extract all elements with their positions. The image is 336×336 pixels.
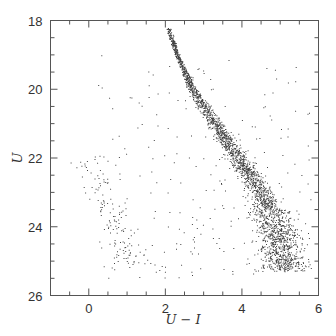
x-axis-title: U − I [165,312,201,327]
scatter-points [71,28,312,279]
y-tick-labels: 1820222426 [28,14,42,304]
x-tick-label: 6 [315,301,322,316]
y-axis-title: U [10,151,25,163]
x-tick-label: 4 [238,301,245,316]
y-tick-label: 24 [28,220,42,235]
y-tick-label: 26 [28,289,42,304]
y-tick-label: 20 [28,82,42,97]
y-tick-label: 22 [28,151,42,166]
x-tick-label: 0 [85,301,92,316]
x-tick-labels: 0246 [85,301,322,316]
color-magnitude-diagram: 0246 1820222426 U − I U [0,0,336,336]
star-points [71,28,312,279]
y-tick-label: 18 [28,14,42,29]
